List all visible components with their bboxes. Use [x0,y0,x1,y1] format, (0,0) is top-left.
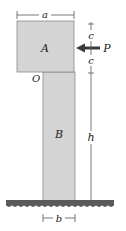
structure-diagram: a B A O P c c h b [0,0,126,231]
label-b-column: B [54,128,63,141]
force-arrow-icon [76,44,100,53]
label-h: h [87,131,94,144]
label-origin: O [32,73,40,84]
ground-hatch [6,200,114,207]
label-c-lower: c [88,55,94,66]
label-b-width: b [56,213,62,224]
label-force: P [102,42,111,55]
label-c-upper: c [88,30,94,41]
label-a-block: A [40,42,49,55]
dimension-a: a [17,9,74,20]
label-a: a [42,9,48,20]
